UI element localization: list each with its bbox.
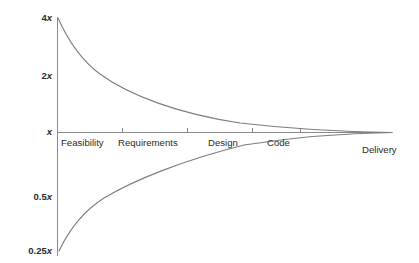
y-axis-label-4x: 4x [20,13,52,23]
cone-of-uncertainty-chart: 4x 2x x 0.5x 0.25x Feasibility Requireme… [0,0,419,263]
x-axis-label-design: Design [208,138,238,148]
x-axis-label-requirements: Requirements [118,138,178,148]
x-axis-label-delivery: Delivery [362,145,397,155]
x-axis-label-feasibility: Feasibility [61,138,104,148]
y-axis-unit-0-25x: x [47,245,52,256]
y-axis-label-2x: 2x [20,71,52,81]
y-axis-label-0-25x: 0.25x [8,246,52,256]
chart-plot-area [0,0,419,263]
y-axis-unit-x: x [47,126,52,137]
y-axis-label-0-5x: 0.5x [14,192,52,202]
y-axis-label-x: x [20,127,52,137]
x-axis-label-code: Code [267,138,290,148]
lower-bound-curve [59,133,392,252]
upper-bound-curve [58,18,392,133]
y-axis-unit-4x: x [47,12,52,23]
y-axis-unit-0-5x: x [47,191,52,202]
y-axis-unit-2x: x [47,70,52,81]
